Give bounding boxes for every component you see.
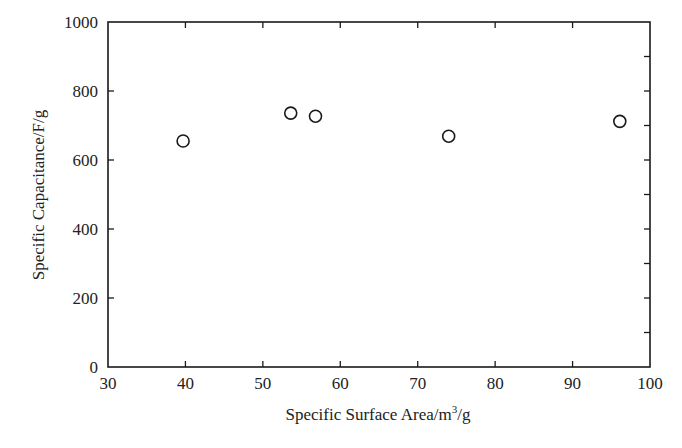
x-tick-label: 40 bbox=[177, 374, 194, 393]
x-tick-label: 30 bbox=[100, 374, 117, 393]
y-tick-label: 1000 bbox=[64, 13, 98, 32]
y-tick-label: 600 bbox=[73, 151, 99, 170]
y-tick-label: 0 bbox=[90, 358, 99, 377]
data-point bbox=[443, 130, 455, 142]
x-tick-label: 100 bbox=[637, 374, 663, 393]
data-point bbox=[614, 115, 626, 127]
data-point bbox=[310, 110, 322, 122]
data-point bbox=[285, 107, 297, 119]
y-tick-labels: 02004006008001000 bbox=[64, 13, 98, 377]
data-points bbox=[177, 107, 626, 147]
x-tick-label: 60 bbox=[332, 374, 349, 393]
x-tick-label: 80 bbox=[487, 374, 504, 393]
x-axis-label-tail: /g bbox=[457, 405, 471, 424]
y-tick-label: 400 bbox=[73, 220, 99, 239]
x-tick-label: 90 bbox=[564, 374, 581, 393]
plot-frame bbox=[108, 22, 650, 367]
scatter-chart: 30405060708090100 02004006008001000 Spec… bbox=[0, 0, 682, 448]
axis-ticks bbox=[108, 22, 650, 367]
x-tick-label: 70 bbox=[409, 374, 426, 393]
plot-border bbox=[108, 22, 650, 367]
x-axis-label: Specific Surface Area/m3/g bbox=[286, 403, 471, 424]
y-tick-label: 200 bbox=[73, 289, 99, 308]
y-tick-label: 800 bbox=[73, 82, 99, 101]
x-tick-labels: 30405060708090100 bbox=[100, 374, 663, 393]
data-point bbox=[177, 135, 189, 147]
y-axis-label: Specific Capacitance/F/g bbox=[29, 109, 48, 280]
x-axis-label-main: Specific Surface Area/m bbox=[286, 405, 452, 424]
x-tick-label: 50 bbox=[254, 374, 271, 393]
